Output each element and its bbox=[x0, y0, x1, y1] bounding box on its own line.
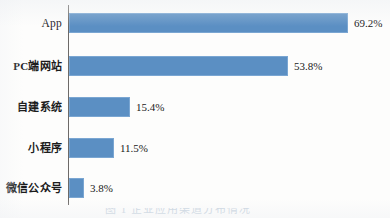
bar-row: 自建系统 15.4% bbox=[0, 96, 390, 118]
value-label: 53.8% bbox=[294, 55, 322, 77]
bar-segment bbox=[69, 56, 288, 76]
value-label: 69.2% bbox=[354, 12, 382, 34]
bar-segment bbox=[69, 13, 348, 33]
bar-row: PC端网站 53.8% bbox=[0, 55, 390, 77]
bar-segment bbox=[69, 97, 130, 117]
bar-chart-plot-area: App 69.2% PC端网站 53.8% 自建系统 15.4% 小程序 11.… bbox=[0, 0, 390, 206]
category-label: 自建系统 bbox=[0, 96, 62, 118]
value-label: 3.8% bbox=[90, 177, 113, 199]
category-label: 小程序 bbox=[0, 137, 62, 159]
chart-figure: App 69.2% PC端网站 53.8% 自建系统 15.4% 小程序 11.… bbox=[0, 0, 390, 218]
figure-caption-text: 图 1 企业应用渠道分布情况 bbox=[105, 208, 251, 216]
category-label: PC端网站 bbox=[0, 55, 62, 77]
category-label: 微信公众号 bbox=[0, 177, 62, 199]
bar-segment bbox=[69, 138, 114, 158]
bar-segment bbox=[69, 178, 84, 198]
value-label: 11.5% bbox=[120, 137, 148, 159]
value-label: 15.4% bbox=[136, 96, 164, 118]
figure-caption: 图 1 企业应用渠道分布情况 bbox=[0, 208, 390, 218]
bar-row: 微信公众号 3.8% bbox=[0, 177, 390, 199]
bar-row: 小程序 11.5% bbox=[0, 137, 390, 159]
bar-row: App 69.2% bbox=[0, 12, 390, 34]
category-label: App bbox=[0, 12, 62, 34]
